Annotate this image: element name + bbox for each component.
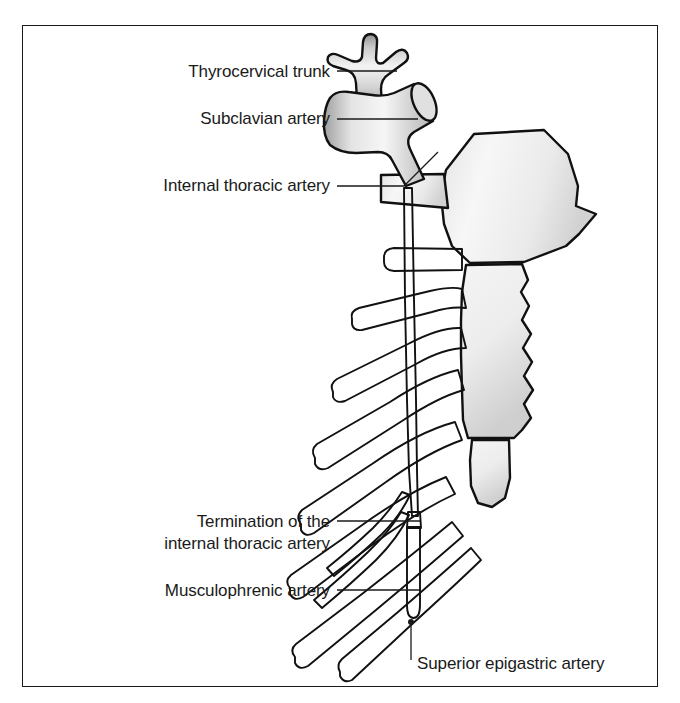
costal-cartilage-1 <box>384 248 462 271</box>
subclavian-artery-group <box>324 34 442 186</box>
costal-cartilage-3 <box>332 328 466 402</box>
label-thyrocervical-trunk: Thyrocervical trunk <box>188 62 330 81</box>
costal-cartilage-4 <box>313 370 464 469</box>
leader-dot-superior-epigastric <box>408 619 414 625</box>
label-subclavian-artery: Subclavian artery <box>200 109 330 128</box>
sternum-body-shape <box>461 264 533 438</box>
label-internal-thoracic-artery: Internal thoracic artery <box>163 176 330 195</box>
figure-root: Thyrocervical trunk Subclavian artery In… <box>0 0 680 703</box>
costal-cartilages-group <box>287 248 481 681</box>
sternum-group <box>441 130 596 507</box>
xiphoid-process-shape <box>470 440 510 507</box>
internal-thoracic-artery-group <box>314 188 421 618</box>
label-termination-internal-thoracic-line1: Termination of the <box>197 512 330 531</box>
costal-cartilage-2 <box>352 288 466 330</box>
manubrium-shape <box>441 130 596 263</box>
label-musculophrenic-artery: Musculophrenic artery <box>165 581 331 600</box>
superior-epigastric-artery-shape <box>407 527 420 618</box>
internal-thoracic-artery-shape <box>404 188 418 516</box>
label-termination-internal-thoracic-line2: internal thoracic artery <box>164 534 330 553</box>
label-superior-epigastric-artery: Superior epigastric artery <box>417 654 605 673</box>
anatomical-diagram: Thyrocervical trunk Subclavian artery In… <box>0 0 680 703</box>
